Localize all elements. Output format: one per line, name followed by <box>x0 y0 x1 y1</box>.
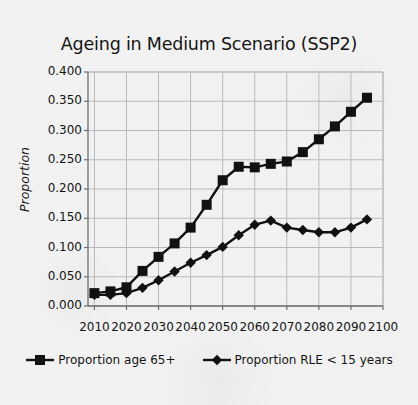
legend-item-label: Proportion age 65+ <box>58 353 175 367</box>
series-rle-under-15 <box>89 214 372 300</box>
data-point-marker <box>330 227 340 237</box>
legend-item-age-65-plus[interactable]: Proportion age 65+ <box>25 352 175 368</box>
data-point-marker <box>266 159 276 169</box>
data-series-layer <box>89 93 372 300</box>
data-point-marker <box>346 107 356 117</box>
grid-lines <box>88 72 383 306</box>
data-point-marker <box>202 200 212 210</box>
data-point-marker <box>234 162 244 172</box>
axis-ticks <box>84 72 383 310</box>
series-age-65-plus <box>89 93 372 298</box>
chart-figure: Ageing in Medium Scenario (SSP2) Proport… <box>0 0 418 405</box>
square-marker-icon <box>25 352 55 368</box>
data-point-marker <box>201 250 211 260</box>
data-point-marker <box>154 252 164 262</box>
data-point-marker <box>314 227 324 237</box>
data-point-marker <box>298 225 308 235</box>
data-point-marker <box>282 222 292 232</box>
data-point-marker <box>266 215 276 225</box>
data-point-marker <box>250 162 260 172</box>
legend-item-label: Proportion RLE < 15 years <box>235 353 393 367</box>
data-point-marker <box>138 266 148 276</box>
data-point-marker <box>298 147 308 157</box>
plot-area <box>0 0 418 405</box>
data-point-marker <box>169 266 179 276</box>
data-point-marker <box>362 214 372 224</box>
data-point-marker <box>330 121 340 131</box>
data-point-marker <box>282 157 292 167</box>
data-point-marker <box>186 223 196 233</box>
data-point-marker <box>314 134 324 144</box>
data-point-marker <box>346 222 356 232</box>
data-point-marker <box>362 93 372 103</box>
diamond-marker-icon <box>202 352 232 368</box>
chart-legend: Proportion age 65+Proportion RLE < 15 ye… <box>0 352 418 368</box>
data-point-marker <box>170 238 180 248</box>
data-point-marker <box>218 175 228 185</box>
legend-item-rle-under-15[interactable]: Proportion RLE < 15 years <box>202 352 393 368</box>
data-point-marker <box>137 283 147 293</box>
data-point-marker <box>185 258 195 268</box>
